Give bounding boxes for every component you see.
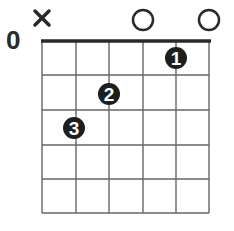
chord-diagram: 1 2 3 [0, 0, 234, 231]
finger-dot-3: 3 [63, 117, 85, 139]
frets [42, 75, 209, 213]
finger-number: 1 [171, 48, 182, 69]
finger-dot-1: 1 [165, 47, 187, 69]
finger-number: 3 [69, 118, 80, 139]
muted-string-icon [35, 11, 49, 25]
open-string-icon [133, 10, 153, 30]
finger-dot-2: 2 [98, 83, 120, 105]
finger-number: 2 [104, 84, 115, 105]
open-string-icon [199, 10, 219, 30]
